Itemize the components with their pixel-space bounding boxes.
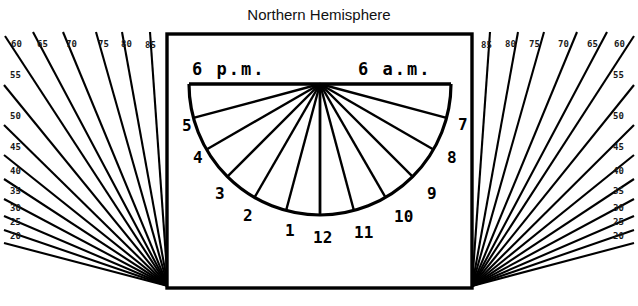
latitude-label-right-25: 25: [613, 217, 624, 227]
hour-label-10: 10: [394, 207, 413, 226]
latitude-label-right-60: 60: [614, 39, 625, 49]
latitude-ray-right-45: [472, 155, 634, 286]
latitude-ray-left-35: [4, 199, 168, 286]
hour-label-9: 9: [427, 184, 437, 203]
left-latitude-fan: [4, 32, 168, 286]
latitude-label-right-50: 50: [613, 111, 624, 121]
latitude-label-right-75: 75: [529, 39, 540, 49]
latitude-label-left-40: 40: [10, 166, 21, 176]
latitude-label-right-85: 85: [481, 40, 492, 50]
sundial-diagram-page: Northern Hemisphere 6 p.m. 6 a.m. 543211…: [0, 0, 638, 306]
latitude-label-left-20: 20: [10, 231, 21, 241]
hour-label-4: 4: [193, 148, 203, 167]
latitude-ray-left-60: [5, 36, 168, 286]
latitude-label-right-40: 40: [613, 166, 624, 176]
hour-label-12: 12: [313, 228, 332, 247]
latitude-label-left-30: 30: [10, 203, 21, 213]
latitude-label-right-80: 80: [505, 39, 516, 49]
pm-label: 6 p.m.: [192, 59, 265, 79]
latitude-label-right-65: 65: [587, 39, 598, 49]
latitude-ray-right-55: [472, 85, 634, 286]
latitude-ray-left-55: [4, 85, 168, 286]
latitude-ray-right-75: [472, 32, 544, 286]
latitude-label-left-45: 45: [10, 142, 21, 152]
latitude-label-right-45: 45: [613, 142, 624, 152]
hour-label-2: 2: [243, 206, 253, 225]
latitude-ray-left-40: [4, 179, 168, 286]
hour-label-5: 5: [182, 116, 192, 135]
hour-label-11: 11: [354, 223, 373, 242]
latitude-ray-left-45: [4, 155, 168, 286]
latitude-label-left-50: 50: [10, 111, 21, 121]
hour-label-3: 3: [215, 184, 225, 203]
page-title: Northern Hemisphere: [247, 6, 390, 23]
latitude-label-left-55: 55: [10, 70, 21, 80]
latitude-label-right-20: 20: [613, 231, 624, 241]
latitude-label-right-30: 30: [613, 203, 624, 213]
am-label: 6 a.m.: [358, 59, 431, 79]
latitude-label-left-85: 85: [145, 40, 156, 50]
latitude-label-left-80: 80: [121, 39, 132, 49]
latitude-label-left-70: 70: [66, 39, 77, 49]
latitude-label-left-65: 65: [37, 39, 48, 49]
latitude-label-right-70: 70: [558, 39, 569, 49]
latitude-label-left-75: 75: [98, 39, 109, 49]
hour-label-8: 8: [447, 148, 457, 167]
right-latitude-fan: [472, 32, 634, 286]
latitude-ray-left-75: [96, 32, 168, 286]
diagram-canvas: Northern Hemisphere 6 p.m. 6 a.m. 543211…: [0, 0, 638, 306]
hour-label-1: 1: [285, 221, 295, 240]
latitude-label-left-25: 25: [10, 217, 21, 227]
latitude-label-right-35: 35: [613, 186, 624, 196]
latitude-ray-right-65: [472, 32, 607, 286]
latitude-label-right-55: 55: [613, 70, 624, 80]
hour-label-7: 7: [458, 115, 468, 134]
latitude-label-left-35: 35: [10, 186, 21, 196]
latitude-label-left-60: 60: [11, 39, 22, 49]
latitude-ray-right-40: [472, 179, 634, 286]
